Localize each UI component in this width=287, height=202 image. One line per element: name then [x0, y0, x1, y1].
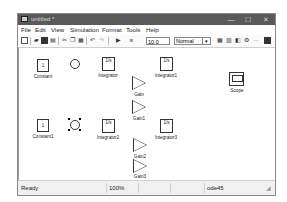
- build-icon[interactable]: ⚙: [243, 37, 250, 44]
- gain-block[interactable]: [133, 159, 147, 173]
- chevron-down-icon[interactable]: ▾: [202, 38, 210, 44]
- scope-block[interactable]: [229, 72, 244, 86]
- simulink-app-icon: [21, 16, 28, 22]
- simulation-mode-value: Normal: [176, 38, 194, 44]
- toolbar: ▰ ▤ ✂ ❐ ▦ ↶ ↷ ▶ ■ 10.0 Normal ▾ ▦ ▥ ◧ ⚙ …: [18, 35, 275, 48]
- block-label: Gain3: [134, 174, 146, 179]
- redo-icon[interactable]: ↷: [98, 37, 105, 44]
- signal-icon[interactable]: ⋯: [252, 37, 259, 44]
- config-icon[interactable]: [264, 37, 271, 44]
- maximize-button[interactable]: ☐: [240, 14, 256, 25]
- block-label: Integrator1: [155, 73, 177, 78]
- cut-icon[interactable]: ✂: [61, 37, 68, 44]
- solver-name: ode45: [207, 184, 224, 192]
- simulation-mode-select[interactable]: Normal ▾: [174, 37, 211, 45]
- integrator-tf: 1/s: [163, 120, 169, 125]
- window-title: untitled *: [31, 15, 54, 24]
- stop-icon[interactable]: ■: [128, 37, 135, 44]
- status-bar: Ready 100% ode45 ◢: [18, 180, 275, 195]
- selection-handle[interactable]: [79, 129, 81, 131]
- block-label: Integrator2: [97, 135, 119, 140]
- gain-block[interactable]: [132, 76, 146, 90]
- integrator-tf: 1/s: [105, 120, 111, 125]
- block-label: Constant1: [33, 134, 54, 139]
- model-canvas[interactable]: 1 Constant 1/s Integrator 1/s Integrator…: [18, 48, 275, 182]
- save-icon[interactable]: [41, 37, 48, 44]
- menu-format[interactable]: Format: [102, 25, 122, 35]
- new-icon[interactable]: [21, 37, 28, 44]
- block-label: Scope: [230, 88, 243, 93]
- constant-block[interactable]: 1: [37, 119, 49, 132]
- open-icon[interactable]: ▰: [33, 37, 40, 44]
- library-browser-icon[interactable]: ▦: [216, 37, 223, 44]
- block-label: Integrator: [98, 73, 118, 78]
- scope-screen-icon: [232, 75, 243, 82]
- block-label: Constant: [34, 74, 52, 79]
- selection-handle[interactable]: [79, 118, 81, 120]
- menu-view[interactable]: View: [51, 25, 64, 35]
- zoom-level: 100%: [109, 184, 124, 192]
- menu-bar: File Edit View Simulation Format Tools H…: [18, 25, 275, 35]
- paste-icon[interactable]: ▦: [77, 37, 84, 44]
- print-icon[interactable]: ▤: [49, 37, 56, 44]
- status-text: Ready: [21, 184, 38, 192]
- gain-block[interactable]: [133, 138, 147, 152]
- constant-block[interactable]: 1: [37, 59, 49, 72]
- stop-time-input[interactable]: 10.0: [146, 37, 170, 45]
- block-label: Gain: [134, 92, 144, 97]
- integrator-block[interactable]: 1/s: [160, 119, 173, 133]
- integrator-block[interactable]: 1/s: [160, 57, 173, 71]
- integrator-block[interactable]: 1/s: [102, 57, 115, 71]
- undo-icon[interactable]: ↶: [89, 37, 96, 44]
- block-label: Gain1: [133, 116, 145, 121]
- play-icon[interactable]: ▶: [115, 37, 122, 44]
- menu-simulation[interactable]: Simulation: [70, 25, 99, 35]
- minimize-button[interactable]: —: [223, 14, 239, 25]
- block-label: Integrator3: [155, 135, 177, 140]
- sum-block[interactable]: [70, 59, 80, 69]
- close-button[interactable]: ✕: [258, 14, 274, 25]
- integrator-tf: 1/s: [163, 58, 169, 63]
- model-window: untitled * — ☐ ✕ File Edit View Simulati…: [17, 13, 276, 196]
- resize-grip-icon[interactable]: ◢: [266, 184, 271, 192]
- integrator-block[interactable]: 1/s: [102, 119, 115, 133]
- menu-file[interactable]: File: [21, 25, 31, 35]
- menu-tools[interactable]: Tools: [126, 25, 140, 35]
- gain-block[interactable]: [132, 100, 146, 114]
- copy-icon[interactable]: ❐: [69, 37, 76, 44]
- selection-handle[interactable]: [68, 129, 70, 131]
- selection-handle[interactable]: [68, 118, 70, 120]
- menu-edit[interactable]: Edit: [35, 25, 46, 35]
- title-bar[interactable]: untitled * — ☐ ✕: [18, 14, 275, 25]
- menu-help[interactable]: Help: [146, 25, 159, 35]
- debugger-icon[interactable]: ◧: [234, 37, 241, 44]
- integrator-tf: 1/s: [105, 58, 111, 63]
- model-explorer-icon[interactable]: ▥: [225, 37, 232, 44]
